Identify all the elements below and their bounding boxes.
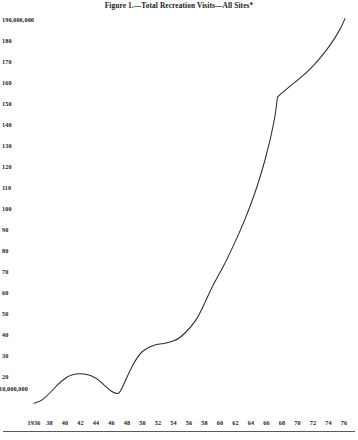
x-tick-label: 1936 <box>28 419 41 426</box>
x-tick-label: 54 <box>170 419 176 426</box>
x-tick-label: 72 <box>310 419 316 426</box>
series-line-total-recreation-visits <box>34 19 345 404</box>
x-tick-label: 70 <box>294 419 300 426</box>
x-tick-label: 46 <box>108 419 114 426</box>
x-tick-label: 44 <box>93 419 99 426</box>
x-tick-label: 60 <box>217 419 223 426</box>
x-tick-label: 64 <box>248 419 254 426</box>
x-axis-line <box>3 431 355 432</box>
x-tick-label: 76 <box>341 419 347 426</box>
x-tick-label: 62 <box>232 419 238 426</box>
x-tick-label: 66 <box>263 419 269 426</box>
x-tick-label: 40 <box>62 419 68 426</box>
figure-container: Figure 1.—Total Recreation Visits—All Si… <box>0 0 358 440</box>
series-line-chart <box>0 0 358 440</box>
x-tick-label: 50 <box>139 419 145 426</box>
x-tick-label: 48 <box>124 419 130 426</box>
plot-area: 190,000,000 180 170 160 150 140 130 120 … <box>0 0 358 440</box>
x-tick-label: 58 <box>201 419 207 426</box>
x-tick-label: 56 <box>186 419 192 426</box>
x-tick-label: 38 <box>46 419 52 426</box>
x-tick-label: 42 <box>77 419 83 426</box>
x-tick-label: 52 <box>155 419 161 426</box>
x-tick-label: 68 <box>279 419 285 426</box>
x-tick-label: 74 <box>325 419 331 426</box>
